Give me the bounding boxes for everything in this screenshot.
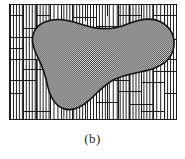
figure-caption: (b) [0, 131, 185, 147]
figure-root: (b) [0, 0, 185, 159]
figure-canvas [10, 5, 176, 119]
figure-frame [9, 4, 177, 120]
